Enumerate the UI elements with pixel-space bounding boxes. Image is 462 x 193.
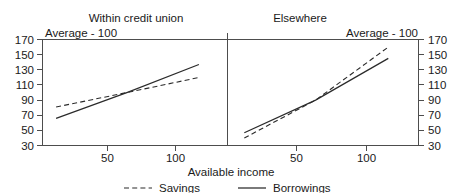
x-tick-label: 50 — [290, 152, 303, 164]
y-axis-tick-labels-left: 170 150 130 110 90 70 50 30 — [15, 34, 34, 152]
x-axis-ticks-left — [108, 146, 176, 152]
y-tick-label: 150 — [15, 49, 34, 61]
y-tick-label: 70 — [428, 109, 441, 121]
series-line-savings-right — [244, 47, 388, 138]
series-line-borrowings-right — [244, 58, 388, 132]
y-axis-ticks-left — [37, 40, 43, 146]
plot-axes-right — [228, 40, 419, 146]
x-axis-ticks-right — [297, 146, 367, 152]
chart-legend: Savings Borrowings — [124, 182, 331, 193]
x-axis-caption: Available income — [188, 166, 275, 178]
y-tick-label: 110 — [16, 79, 34, 91]
legend-item-borrowings: Borrowings — [238, 182, 331, 193]
y-tick-label: 150 — [428, 49, 447, 61]
legend-label-savings: Savings — [159, 182, 200, 193]
panel-elsewhere: Elsewhere Average - 100 170 150 130 110 … — [228, 12, 448, 164]
legend-item-savings: Savings — [124, 182, 200, 193]
y-tick-label: 110 — [428, 79, 446, 91]
y-tick-label: 50 — [21, 124, 34, 136]
x-axis-tick-labels-left: 50 100 — [101, 152, 185, 164]
y-axis-ticks-right — [419, 40, 425, 146]
x-tick-label: 50 — [101, 152, 114, 164]
y-tick-label: 130 — [428, 64, 447, 76]
x-tick-label: 100 — [357, 152, 376, 164]
x-axis-tick-labels-right: 50 100 — [290, 152, 376, 164]
x-tick-label: 100 — [166, 152, 185, 164]
y-tick-label: 70 — [21, 109, 34, 121]
y-tick-label: 50 — [428, 124, 441, 136]
panel-subtitle-left: Average - 100 — [45, 27, 117, 39]
chart-figure: Within credit union Average - 100 170 15… — [0, 0, 462, 193]
y-tick-label: 90 — [428, 94, 441, 106]
legend-label-borrowings: Borrowings — [273, 182, 331, 193]
panel-subtitle-right: Average - 100 — [346, 27, 418, 39]
y-tick-label: 170 — [428, 34, 447, 46]
panel-title-right: Elsewhere — [273, 12, 327, 24]
chart-svg: Within credit union Average - 100 170 15… — [0, 0, 462, 193]
panel-title-left: Within credit union — [89, 12, 184, 24]
y-tick-label: 30 — [21, 140, 34, 152]
y-axis-tick-labels-right: 170 150 130 110 90 70 50 30 — [428, 34, 447, 152]
y-tick-label: 90 — [21, 94, 34, 106]
plot-axes-left — [43, 40, 228, 146]
y-tick-label: 130 — [15, 64, 34, 76]
series-line-borrowings-left — [56, 65, 199, 119]
y-tick-label: 30 — [428, 140, 441, 152]
y-tick-label: 170 — [15, 34, 34, 46]
panel-within-credit-union: Within credit union Average - 100 170 15… — [15, 12, 228, 164]
